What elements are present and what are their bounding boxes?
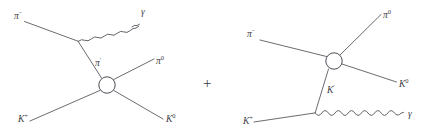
kaon-plus-in-line-right: [254, 113, 315, 122]
label-kaon-plus-in-right: K+: [242, 114, 253, 126]
label-photon-left: γ: [141, 7, 145, 17]
kaon0-out-line-left: [114, 91, 163, 119]
label-kaon-plus-in-left: K+: [17, 112, 28, 124]
label-pion-in-right: π−: [247, 27, 256, 39]
photon-wave-right: [315, 111, 403, 116]
plus-operator: +: [203, 75, 211, 91]
kaon0-out-line-right: [342, 64, 397, 82]
kaon-plus-in-line-left: [30, 91, 100, 122]
pion0-out-line-right: [340, 15, 381, 56]
label-internal-pion-left: π′: [95, 56, 102, 68]
label-pion-in-left: π−: [14, 9, 23, 21]
feynman-diagram-figure: π− γ π′ π0 K+ K0 + π: [0, 0, 428, 131]
interaction-blob-right: [326, 53, 342, 69]
pion-in-line-left: [25, 22, 79, 42]
diagram-right: π− π0 K0 K′ K+ γ: [242, 8, 412, 126]
pion-in-line-right: [260, 40, 327, 57]
label-pion0-out-left: π0: [156, 54, 164, 66]
label-pion0-out-right: π0: [383, 8, 391, 20]
diagram-canvas: π− γ π′ π0 K+ K0 + π: [0, 0, 428, 131]
label-kaon0-out-left: K0: [165, 112, 176, 124]
photon-wave-left: [78, 26, 138, 41]
pion0-out-line-left: [114, 59, 155, 80]
interaction-blob-left: [99, 77, 115, 93]
label-photon-right: γ: [408, 109, 412, 119]
label-internal-kaon-right: K′: [326, 83, 335, 95]
label-kaon0-out-right: K0: [398, 77, 409, 89]
diagram-left: π− γ π′ π0 K+ K0: [14, 7, 176, 124]
